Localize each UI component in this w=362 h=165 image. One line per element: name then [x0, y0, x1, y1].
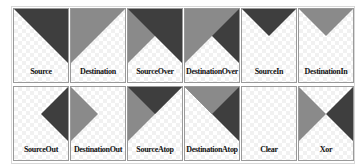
panel-destination: Destination	[70, 8, 126, 83]
destination-over-composite-image	[185, 9, 239, 63]
panel-source-atop: SourceAtop	[127, 86, 183, 161]
panel-label: Clear	[242, 145, 296, 154]
panel-label: Xor	[299, 145, 353, 154]
destination-atop-composite-image	[185, 87, 239, 141]
panel-label: DestinationAtop	[185, 145, 239, 154]
panel-destination-atop: DestinationAtop	[184, 86, 240, 161]
panel-label: DestinationOut	[71, 145, 125, 154]
panel-label: SourceAtop	[128, 145, 182, 154]
destination-in-composite-image	[299, 9, 353, 63]
source-composite-image	[14, 9, 68, 63]
panel-source-in: SourceIn	[241, 8, 297, 83]
panel-label: DestinationIn	[299, 67, 353, 76]
source-in-composite-image	[242, 9, 296, 63]
panel-source-over: SourceOver	[127, 8, 183, 83]
panel-xor: Xor	[298, 86, 354, 161]
panel-label: SourceOver	[128, 67, 182, 76]
source-atop-composite-image	[128, 87, 182, 141]
source-out-composite-image	[14, 87, 68, 141]
panel-label: SourceIn	[242, 67, 296, 76]
panel-destination-out: DestinationOut	[70, 86, 126, 161]
panel-destination-in: DestinationIn	[298, 8, 354, 83]
composition-modes-grid: Source Destination SourceOver Destinatio…	[13, 8, 354, 161]
xor-composite-image	[299, 87, 353, 141]
panel-label: Destination	[71, 67, 125, 76]
destination-out-composite-image	[71, 87, 125, 141]
panel-source: Source	[13, 8, 69, 83]
panel-destination-over: DestinationOver	[184, 8, 240, 83]
panel-label: SourceOut	[14, 145, 68, 154]
destination-composite-image	[71, 9, 125, 63]
panel-source-out: SourceOut	[13, 86, 69, 161]
panel-label: Source	[14, 67, 68, 76]
panel-clear: Clear	[241, 86, 297, 161]
source-over-composite-image	[128, 9, 182, 63]
clear-composite-image	[242, 87, 296, 141]
panel-label: DestinationOver	[185, 67, 239, 76]
